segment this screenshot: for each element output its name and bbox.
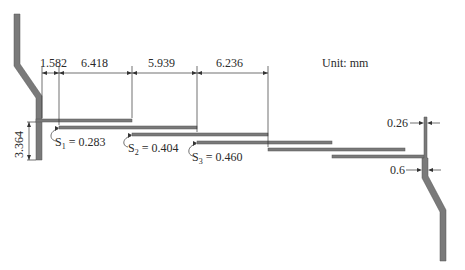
gap-value: = 0.404	[139, 141, 179, 155]
vertical-dim-label: 3.364	[13, 131, 25, 158]
gap-symbol: S	[192, 150, 199, 164]
strip-row-e	[268, 148, 405, 151]
gap-value: = 0.460	[203, 150, 243, 164]
thickness-label-top: 0.26	[387, 117, 408, 129]
gap-label-s3: S3 = 0.460	[192, 151, 242, 168]
gap-value: = 0.283	[66, 135, 106, 149]
dim-label-2: 6.418	[81, 57, 108, 69]
strip-row-c	[132, 133, 268, 136]
strip-row-b	[59, 126, 197, 129]
strip-row-a	[36, 119, 132, 122]
gap-symbol: S	[55, 135, 62, 149]
unit-label: Unit: mm	[322, 57, 368, 69]
gap-symbol: S	[128, 141, 135, 155]
strip-row-f	[332, 155, 426, 158]
dim-label-4: 6.236	[216, 57, 243, 69]
right-wall-plate	[422, 117, 446, 261]
thickness-label-bottom: 0.6	[390, 164, 405, 176]
gap-label-s1: S1 = 0.283	[55, 136, 105, 153]
dim-label-3: 5.939	[148, 57, 175, 69]
dim-label-1: 1.582	[40, 57, 67, 69]
strip-row-d	[197, 141, 332, 144]
gap-label-s2: S2 = 0.404	[128, 142, 178, 159]
